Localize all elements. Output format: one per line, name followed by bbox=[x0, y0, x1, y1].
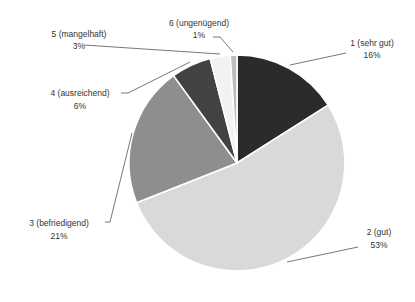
label-pct: 16% bbox=[363, 50, 380, 60]
leader-line-3 bbox=[105, 133, 132, 222]
slice-label-1: 1 (sehr gut) 16% bbox=[350, 38, 394, 60]
label-name: 2 (gut) bbox=[367, 227, 392, 237]
label-name: 4 (ausreichend) bbox=[50, 88, 109, 98]
label-name: 6 (ungenügend) bbox=[169, 18, 229, 28]
slice-label-3: 3 (befriedigend) 21% bbox=[29, 218, 89, 241]
leader-line-1 bbox=[290, 53, 346, 65]
label-pct: 1% bbox=[193, 30, 206, 40]
label-pct: 53% bbox=[370, 240, 387, 250]
slice-label-5: 5 (mangelhaft) 3% bbox=[52, 29, 107, 51]
label-pct: 6% bbox=[74, 101, 87, 111]
label-name: 1 (sehr gut) bbox=[350, 38, 394, 48]
label-name: 3 (befriedigend) bbox=[29, 218, 89, 228]
leader-line-5 bbox=[84, 45, 220, 54]
pie-chart: 1 (sehr gut) 16% 2 (gut) 53% 3 (befriedi… bbox=[0, 0, 415, 302]
label-name: 5 (mangelhaft) bbox=[52, 29, 107, 39]
label-pct: 21% bbox=[50, 231, 67, 241]
pie-slices bbox=[129, 55, 345, 271]
leader-line-6 bbox=[213, 37, 233, 52]
slice-label-2: 2 (gut) 53% bbox=[367, 227, 392, 250]
slice-label-4: 4 (ausreichend) 6% bbox=[50, 88, 109, 111]
label-pct: 3% bbox=[73, 41, 86, 51]
